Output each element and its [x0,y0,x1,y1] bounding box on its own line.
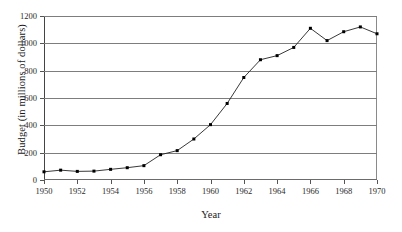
x-tick-mark-1960 [211,180,212,184]
x-tick-mark-1964 [277,180,278,184]
data-point-1955 [126,166,129,169]
data-point-1958 [176,149,179,152]
y-tick-label-400: 400 [3,120,37,130]
y-tick-label-1200: 1200 [3,11,37,21]
data-point-1961 [226,102,229,105]
data-point-1952 [76,170,79,173]
series-line [44,27,377,172]
data-point-1967 [326,39,329,42]
chart-figure: Budget (in millions of dollars) 02004006… [0,0,402,232]
x-tick-mark-1952 [77,180,78,184]
x-tick-mark-1962 [244,180,245,184]
x-tick-mark-1968 [344,180,345,184]
data-point-1962 [242,76,245,79]
x-tick-mark-1966 [310,180,311,184]
data-point-1970 [376,32,379,35]
data-point-1954 [109,168,112,171]
data-point-1957 [159,153,162,156]
y-tick-label-1000: 1000 [3,38,37,48]
data-point-1959 [192,138,195,141]
x-tick-mark-1950 [44,180,45,184]
x-tick-mark-1956 [144,180,145,184]
data-point-1969 [359,25,362,28]
x-tick-mark-1970 [377,180,378,184]
data-point-1965 [292,46,295,49]
data-point-1966 [309,27,312,30]
data-point-1968 [342,30,345,33]
data-series-budget [44,16,377,180]
data-point-1960 [209,123,212,126]
data-point-1964 [276,54,279,57]
data-point-1950 [43,170,46,173]
series-markers [43,25,379,173]
x-tick-label-1970: 1970 [357,186,397,196]
y-tick-label-600: 600 [3,93,37,103]
data-point-1956 [142,164,145,167]
data-point-1953 [92,170,95,173]
data-point-1951 [59,169,62,172]
y-tick-label-200: 200 [3,148,37,158]
data-point-1963 [259,58,262,61]
x-tick-mark-1954 [111,180,112,184]
x-tick-mark-1958 [177,180,178,184]
x-axis-title: Year [44,209,378,220]
y-tick-label-0: 0 [3,175,37,185]
plot-area [44,16,377,180]
y-tick-label-800: 800 [3,66,37,76]
